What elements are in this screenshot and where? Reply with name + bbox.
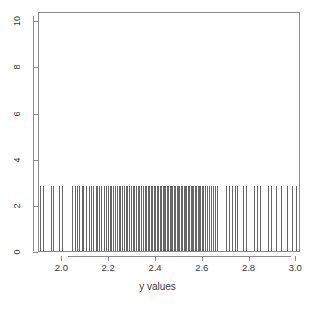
rug-tick (122, 186, 123, 251)
rug-tick (82, 186, 83, 251)
rug-tick (217, 186, 218, 251)
rug-tick (268, 186, 269, 251)
rug-tick (205, 186, 206, 251)
rug-tick (62, 186, 63, 251)
x-tick-mark (202, 256, 203, 261)
rug-tick (229, 186, 230, 251)
y-tick-label: 2 (12, 195, 22, 217)
rug-tick (133, 186, 134, 251)
rug-tick (158, 186, 159, 251)
rug-tick (141, 186, 142, 251)
rug-tick (143, 186, 144, 251)
rug-tick (254, 186, 255, 251)
rug-tick (182, 186, 183, 251)
rug-tick (59, 186, 60, 251)
rug-tick (104, 186, 105, 251)
y-tick-label: 0 (12, 241, 22, 263)
y-tick-mark (33, 206, 38, 207)
rug-tick (165, 186, 166, 251)
rug-tick (235, 186, 236, 251)
rug-tick (117, 186, 118, 251)
rug-tick (178, 186, 179, 251)
rug-tick (138, 186, 139, 251)
rug-tick (232, 186, 233, 251)
y-tick-label: 8 (12, 56, 22, 78)
rug-tick (124, 186, 125, 251)
y-tick-mark (33, 252, 38, 253)
x-tick-label: 2.0 (44, 262, 78, 273)
rug-tick (163, 186, 164, 251)
rug-tick (149, 186, 150, 251)
rug-tick (146, 186, 147, 251)
y-tick-mark (33, 21, 38, 22)
x-tick-label: 2.6 (185, 262, 219, 273)
rug-tick (148, 186, 149, 251)
x-tick-label: 3.0 (278, 262, 312, 273)
rug-tick (167, 186, 168, 251)
rug-tick (43, 186, 44, 251)
rug-tick (276, 186, 277, 251)
rug-tick (172, 186, 173, 251)
rug-tick (189, 186, 190, 251)
x-tick-mark (155, 256, 156, 261)
rug-tick (53, 186, 54, 251)
rug-tick (89, 186, 90, 251)
rug-tick (181, 186, 182, 251)
x-tick-label: 2.2 (91, 262, 125, 273)
rug-tick (120, 186, 121, 251)
rug-tick (86, 186, 87, 251)
rug-tick (151, 186, 152, 251)
rug-tick (175, 186, 176, 251)
rug-tick (101, 186, 102, 251)
rug-tick (168, 186, 169, 251)
rug-tick (99, 186, 100, 251)
rug-tick (155, 186, 156, 251)
x-tick-label: 2.4 (138, 262, 172, 273)
rug-tick (177, 186, 178, 251)
rug-tick (160, 186, 161, 251)
rug-tick (292, 186, 293, 251)
rug-tick (164, 186, 165, 251)
rug-tick (257, 186, 258, 251)
rug-tick (193, 186, 194, 251)
rug-tick-layer (39, 13, 299, 251)
rug-tick (287, 186, 288, 251)
rug-tick (213, 186, 214, 251)
y-tick-mark (33, 160, 38, 161)
x-axis-title: y values (0, 281, 315, 292)
rug-tick (96, 186, 97, 251)
rug-tick (199, 186, 200, 251)
rug-tick (170, 186, 171, 251)
rug-tick (188, 186, 189, 251)
x-tick-label: 2.8 (232, 262, 266, 273)
rug-tick (113, 186, 114, 251)
rug-tick (281, 186, 282, 251)
x-tick-mark (295, 256, 296, 261)
rug-tick (129, 186, 130, 251)
rug-tick (185, 186, 186, 251)
y-tick-label: 6 (12, 103, 22, 125)
rug-tick (110, 186, 111, 251)
x-tick-mark (249, 256, 250, 261)
rug-tick (111, 186, 112, 251)
rug-tick (191, 186, 192, 251)
rug-tick (51, 186, 52, 251)
rug-tick (119, 186, 120, 251)
y-tick-label: 4 (12, 149, 22, 171)
y-tick-mark (33, 114, 38, 115)
rug-tick (243, 186, 244, 251)
x-axis-line (68, 256, 291, 257)
rug-tick (215, 186, 216, 251)
y-axis-line (33, 16, 34, 251)
rug-tick (207, 186, 208, 251)
rug-tick (91, 186, 92, 251)
rug-tick (108, 186, 109, 251)
rug-tick (126, 186, 127, 251)
rug-tick (139, 186, 140, 251)
rug-tick (271, 186, 272, 251)
rug-tick (237, 186, 238, 251)
rug-tick (186, 186, 187, 251)
rug-tick (93, 186, 94, 251)
rug-tick (115, 186, 116, 251)
rug-tick (145, 186, 146, 251)
